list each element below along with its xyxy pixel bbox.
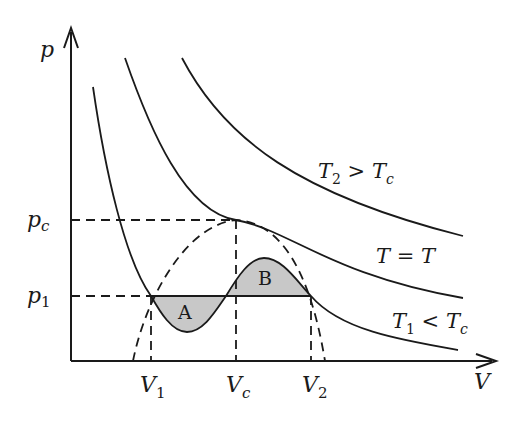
y-axis-label: p bbox=[40, 37, 54, 62]
isotherm-t2 bbox=[182, 58, 463, 236]
region-b-label: B bbox=[258, 267, 272, 289]
vc-tick-label: Vc bbox=[226, 372, 251, 402]
v1-tick-label: V1 bbox=[140, 372, 165, 402]
t2-curve-label: T2 > Tc bbox=[318, 159, 394, 187]
p1-tick-label: p1 bbox=[27, 283, 51, 311]
region-a-label: A bbox=[177, 301, 192, 323]
pv-isotherm-diagram: p V pc p1 V1 Vc V2 T2 > Tc T = T T1 < Tc… bbox=[0, 0, 523, 429]
t1-curve-label: T1 < Tc bbox=[392, 309, 468, 337]
isotherms bbox=[93, 58, 463, 350]
tc-curve-label: T = T bbox=[376, 244, 437, 268]
v2-tick-label: V2 bbox=[302, 372, 327, 402]
pc-tick-label: pc bbox=[27, 207, 50, 235]
x-axis-label: V bbox=[474, 369, 492, 394]
